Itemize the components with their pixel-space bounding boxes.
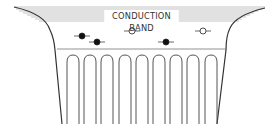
potential-well [84, 55, 96, 124]
filled-electron-icon [74, 33, 90, 39]
potential-well [67, 55, 79, 124]
potential-well [205, 55, 217, 124]
potential-well [119, 55, 131, 124]
right-envelope [217, 8, 265, 124]
potential-wells [67, 55, 217, 124]
potential-well [153, 55, 165, 124]
potential-well [101, 55, 113, 124]
filled-electron-icon [158, 39, 174, 45]
potential-well [187, 55, 199, 124]
conduction-band-label: CONDUCTION BAND [104, 10, 179, 22]
potential-well [170, 55, 182, 124]
filled-electron-icon [89, 39, 105, 45]
empty-state-icon [195, 28, 211, 34]
potential-well [136, 55, 148, 124]
left-envelope [14, 7, 62, 124]
